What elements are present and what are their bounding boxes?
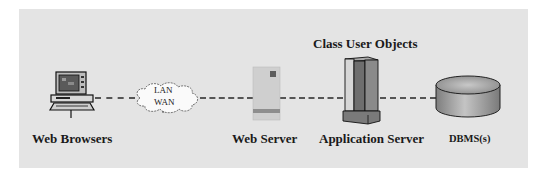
label-application-server: Application Server	[319, 131, 424, 147]
server-tower-icon	[342, 57, 382, 125]
label-web-browsers: Web Browsers	[32, 131, 112, 147]
server-box-icon	[253, 67, 281, 121]
connector-network-webserver	[200, 97, 253, 99]
connector-webserver-appserver	[280, 97, 343, 99]
connector-browser-network	[95, 97, 135, 99]
database-cylinder-icon	[434, 75, 502, 119]
desktop-computer-icon	[48, 70, 96, 120]
app-server-caption: Class User Objects	[313, 36, 417, 52]
cloud-label-lan: LAN	[154, 85, 173, 95]
label-web-server: Web Server	[232, 131, 297, 147]
cloud-label-wan: WAN	[154, 97, 175, 107]
connector-appserver-dbms	[380, 97, 436, 99]
label-dbms: DBMS(s)	[449, 133, 490, 144]
